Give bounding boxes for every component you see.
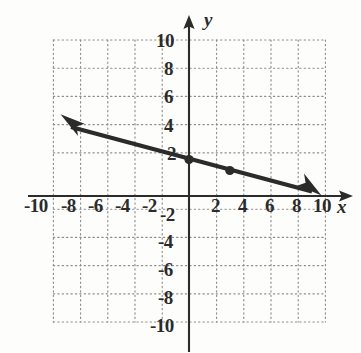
plotted-line — [61, 114, 322, 195]
x-axis-name: x — [337, 197, 347, 216]
y-tick-label-2: 2 — [167, 144, 176, 163]
x-tick-label--10: -10 — [24, 196, 48, 215]
y-tick-label--10: -10 — [150, 316, 174, 335]
x-tick-label--4: -4 — [115, 196, 130, 215]
x-tick-label--6: -6 — [88, 196, 103, 215]
x-tick-label--8: -8 — [61, 196, 76, 215]
y-axis — [183, 15, 194, 352]
y-tick-label-8: 8 — [164, 59, 173, 78]
y-axis-name: y — [204, 10, 212, 29]
coordinate-plane-figure: -10 -8 -6 -4 -2 2 4 6 8 10 10 8 6 4 2 -2… — [0, 0, 361, 353]
x-tick-label--2: -2 — [142, 196, 157, 215]
x-tick-label-4: 4 — [238, 196, 247, 215]
y-tick-label--4: -4 — [158, 232, 173, 251]
x-axis — [28, 190, 353, 201]
y-tick-label-6: 6 — [164, 87, 173, 106]
x-tick-label-6: 6 — [265, 196, 274, 215]
y-tick-label-4: 4 — [164, 116, 173, 135]
graph-canvas — [0, 0, 361, 353]
y-tick-label--6: -6 — [158, 260, 173, 279]
x-tick-label-2: 2 — [211, 196, 220, 215]
y-tick-label-10: 10 — [156, 31, 174, 50]
y-tick-label--8: -8 — [158, 288, 173, 307]
y-tick-label--2: -2 — [160, 205, 175, 224]
x-tick-label-10: 10 — [313, 196, 331, 215]
x-tick-label-8: 8 — [292, 196, 301, 215]
